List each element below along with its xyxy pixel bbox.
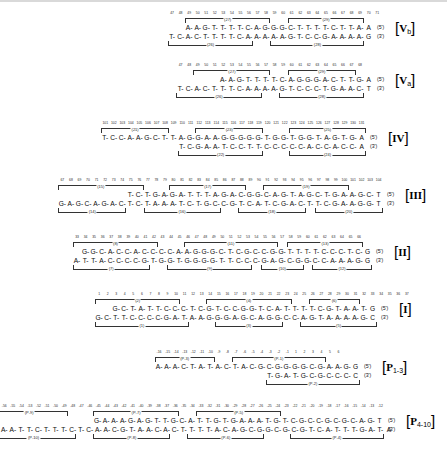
- nucleotide-base: A-: [184, 247, 193, 256]
- nucleotide-base: A-: [262, 32, 271, 41]
- nucleotide-base: G-: [75, 199, 84, 208]
- nucleotide-base: G-: [195, 133, 204, 142]
- nucleotide-base: T-: [309, 304, 318, 313]
- nucleotide-base: G-: [296, 75, 305, 84]
- oligo-bracket-label: (P-9): [24, 410, 35, 415]
- nucleotide-base: T-: [264, 416, 273, 425]
- strand-end-label-5prime: (5'): [377, 75, 384, 84]
- nucleotide-base: T-: [227, 256, 236, 265]
- oligo-bracket-label: (28): [313, 42, 322, 47]
- nucleotide-base: A-: [334, 313, 343, 322]
- top-oligo-bracket-row: (2)(4)(6): [0, 297, 447, 304]
- nucleotide-base: A-: [343, 304, 352, 313]
- oligo-bracket-label: (1): [138, 323, 145, 328]
- nucleotide-base: T-: [339, 23, 348, 32]
- nucleotide-base: T-: [150, 256, 159, 265]
- oligo-bracket-label: (21): [131, 127, 140, 132]
- nucleotide-base: G-: [141, 256, 150, 265]
- bottom-oligo-bracket-row: (1)(3)(5): [0, 322, 447, 329]
- nucleotide-base: C-: [146, 313, 155, 322]
- nucleotide-base: C-: [338, 247, 347, 256]
- nucleotide-base: A-: [0, 425, 9, 434]
- nucleotide-base: T-: [195, 190, 204, 199]
- nucleotide-base: G-: [273, 416, 282, 425]
- strand-end-label-3prime: (3'): [388, 425, 395, 434]
- nucleotide-base: C-: [120, 304, 129, 313]
- nucleotide-base: G-: [206, 304, 215, 313]
- bottom-strand-sequence: G-A-G-C-A-G-A-C-T-C-T-A-A-A-T-C-T-G-C-C-…: [0, 199, 447, 208]
- oligo-bracket: (P-2): [266, 380, 360, 385]
- nucleotide-base: G-: [127, 416, 136, 425]
- nucleotide-base: C-: [238, 142, 247, 151]
- nucleotide-base: T-: [296, 32, 305, 41]
- nucleotide-base: A-: [306, 142, 315, 151]
- nucleotide-base: C-: [222, 425, 231, 434]
- figure-sheet: 4748495051525354555657585960616263646566…: [0, 0, 447, 458]
- nucleotide-base: C-: [34, 425, 43, 434]
- nucleotide-base: T-: [60, 425, 69, 434]
- nucleotide-base: A-: [279, 32, 288, 41]
- nucleotide-base: C-: [249, 313, 258, 322]
- nucleotide-base: A-: [197, 313, 206, 322]
- nucleotide-base: A-: [185, 23, 194, 32]
- nucleotide-base: G-: [317, 362, 326, 371]
- nucleotide-base: A-: [270, 32, 279, 41]
- nucleotide-base: A-: [187, 416, 196, 425]
- nucleotide-base: A-: [245, 84, 254, 93]
- nucleotide-base: T-: [144, 190, 153, 199]
- nucleotide-base: C-: [252, 247, 261, 256]
- nucleotide-base: C-: [366, 190, 375, 199]
- panel-label-Va: [Va]: [395, 73, 415, 90]
- nucleotide-base: A-: [193, 84, 202, 93]
- oligo-bracket-label: (26): [206, 42, 215, 47]
- nucleotide-base: T-: [300, 304, 309, 313]
- nucleotide-base: G-: [299, 425, 308, 434]
- oligo-bracket-label: (4): [245, 298, 252, 303]
- nucleotide-base: T-: [262, 75, 271, 84]
- oligo-bracket-label: (P-4): [332, 435, 343, 440]
- sequence-panel-P1-3: -16-15-14-13-12-11-10-9-8-7-6-5-4-3-2-11…: [0, 349, 447, 387]
- nucleotide-base: A-: [339, 84, 348, 93]
- top-oligo-bracket-row: (27)(29): [0, 68, 447, 75]
- sequence-panel-IV: 1011021031041051061071081091101111121131…: [0, 120, 447, 158]
- nucleotide-base: T-: [304, 247, 313, 256]
- nucleotide-base: T-: [313, 23, 322, 32]
- top-oligo-bracket-row: (21)(23)(25): [0, 126, 447, 133]
- nucleotide-base: T-: [211, 32, 220, 41]
- nucleotide-base: G-: [145, 416, 154, 425]
- nucleotide-base: T-: [189, 362, 198, 371]
- bottom-oligo-bracket-row: (14)(16)(18)(20): [0, 208, 447, 215]
- nucleotide-base: T-: [168, 32, 177, 41]
- nucleotide-base: G-: [192, 247, 201, 256]
- nucleotide-base: G-: [306, 133, 315, 142]
- nucleotide-base: G-: [309, 313, 318, 322]
- nucleotide-base: A-: [326, 362, 335, 371]
- oligo-bracket-label: (8): [112, 241, 119, 246]
- nucleotide-base: C-: [68, 425, 77, 434]
- nucleotide-base: C-: [98, 247, 107, 256]
- nucleotide-base: A-: [73, 256, 82, 265]
- nucleotide-base: T-: [270, 75, 279, 84]
- nucleotide-base: A-: [325, 425, 334, 434]
- nucleotide-base: C-: [232, 304, 241, 313]
- nucleotide-base: G-: [332, 133, 341, 142]
- nucleotide-base: T-: [178, 199, 187, 208]
- oligo-bracket-label: (17): [203, 184, 212, 189]
- bottom-strand-sequence: G-C-T-T-C-C-C-C-G-A-T-A-A-G-G-G-A-G-C-A-…: [0, 313, 447, 322]
- nucleotide-base: G-: [349, 133, 358, 142]
- nucleotide-base: A-: [245, 32, 254, 41]
- nucleotide-base: T-: [334, 304, 343, 313]
- nucleotide-base: A-: [330, 32, 339, 41]
- nucleotide-base: A-: [94, 425, 103, 434]
- oligo-bracket: (P-6): [187, 434, 264, 439]
- nucleotide-base: G-: [246, 133, 255, 142]
- nucleotide-base: A-: [215, 362, 224, 371]
- nucleotide-base: C-: [263, 142, 272, 151]
- nucleotide-base: A-: [204, 133, 213, 142]
- oligo-bracket-label: (3): [245, 323, 252, 328]
- nucleotide-base: T-: [228, 84, 237, 93]
- nucleotide-base: G-: [90, 247, 99, 256]
- oligo-bracket: (20): [315, 208, 383, 213]
- nucleotide-base: A-: [272, 190, 281, 199]
- nucleotide-base: C-: [186, 142, 195, 151]
